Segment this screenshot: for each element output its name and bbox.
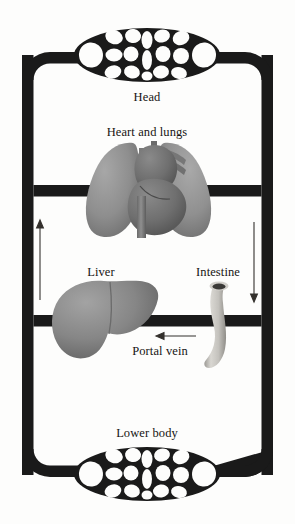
right-downward-flow-arrow <box>251 222 258 302</box>
circulation-diagram: Head Heart and lungs Liver Intestine Por… <box>0 0 295 524</box>
label-liver: Liver <box>87 266 115 279</box>
portal-vein-flow-arrow <box>156 333 196 340</box>
label-portal-vein: Portal vein <box>132 345 188 358</box>
label-head: Head <box>134 91 161 104</box>
label-heart-and-lungs: Heart and lungs <box>107 126 188 139</box>
left-upward-flow-arrow <box>37 220 44 300</box>
label-lower-body: Lower body <box>116 427 178 440</box>
label-intestine: Intestine <box>196 266 240 279</box>
flow-arrows <box>0 0 295 524</box>
